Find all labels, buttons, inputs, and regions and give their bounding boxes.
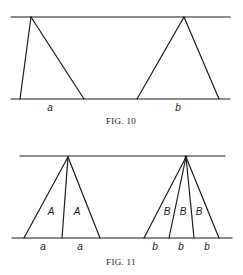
diagram-canvas: a b FIG. 10 A A B B B a a b b b: [0, 0, 243, 275]
fig11-region-label-B2: B: [180, 206, 187, 217]
fan-B-edge-1: [144, 157, 186, 238]
fig11-base-label-b1: b: [152, 241, 158, 252]
fan-B-apex-dot: [185, 156, 188, 159]
triangle-a-left-edge: [20, 17, 31, 99]
fig11-base-label-a1: a: [40, 241, 46, 252]
fan-B-edge-4: [186, 157, 219, 238]
fan-B-edge-3: [186, 157, 194, 238]
fig10-caption: FIG. 10: [106, 116, 136, 126]
triangle-b-left-edge: [137, 17, 184, 99]
fig11-base-label-b3: b: [204, 241, 210, 252]
triangle-b-right-edge: [184, 17, 219, 99]
fig11-base-label-a2: a: [77, 241, 83, 252]
fig10-base-label-a: a: [47, 102, 53, 113]
fig11-region-label-A2: A: [73, 206, 81, 217]
triangle-a-right-edge: [31, 17, 84, 99]
fig10-base-label-b: b: [175, 102, 181, 113]
fig10-triangle-b: [137, 17, 219, 99]
fig10-triangle-a: [20, 17, 84, 99]
fig11-region-label-A1: A: [47, 206, 55, 217]
fig11-base-label-b2: b: [178, 241, 184, 252]
fan-A-edge-1: [24, 157, 68, 238]
fig11-region-label-B1: B: [164, 206, 171, 217]
fig11-fan-B: [144, 156, 219, 238]
fig11-fan-A: [24, 157, 100, 238]
figure-11: A A B B B a a b b b FIG. 11: [12, 156, 232, 267]
fan-B-edge-2: [169, 157, 186, 238]
fan-A-edge-3: [68, 157, 100, 238]
fig11-region-label-B3: B: [196, 206, 203, 217]
fig11-caption: FIG. 11: [106, 257, 136, 267]
fan-A-edge-2: [62, 157, 68, 238]
figure-10: a b FIG. 10: [11, 17, 230, 126]
